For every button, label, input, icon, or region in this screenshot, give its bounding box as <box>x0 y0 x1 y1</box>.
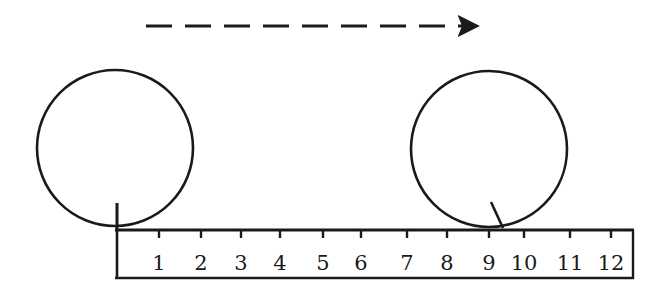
ruler-label: 5 <box>316 251 329 275</box>
ruler-label: 6 <box>354 251 367 275</box>
ruler-label: 10 <box>511 251 538 275</box>
ruler-label: 12 <box>598 251 625 275</box>
ruler-label: 4 <box>273 251 286 275</box>
ruler-label: 8 <box>440 251 453 275</box>
end-rim-marker <box>491 202 503 228</box>
ruler-label: 3 <box>234 251 247 275</box>
start-circle <box>37 70 193 230</box>
ruler-label: 7 <box>400 251 413 275</box>
ruler: 123456789101112 <box>115 203 634 279</box>
rolling-circle-diagram: 123456789101112 <box>0 0 665 298</box>
ruler-label: 9 <box>482 251 495 275</box>
end-circle <box>411 71 567 228</box>
ruler-label: 11 <box>557 251 584 275</box>
ruler-label: 1 <box>152 251 165 275</box>
ruler-label: 2 <box>194 251 207 275</box>
